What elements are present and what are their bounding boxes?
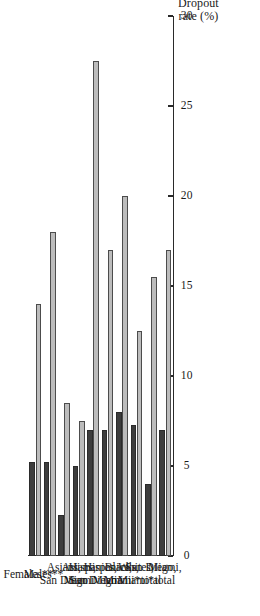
- y-tick-label: 20: [173, 190, 199, 202]
- chart-figure: Dropout rate (%) 051015202530 Miami, tot…: [0, 0, 260, 616]
- category-label: Females**: [0, 568, 60, 581]
- bar-light: [64, 403, 70, 556]
- bar-dark: [73, 466, 79, 556]
- bar-light: [79, 421, 85, 556]
- y-tick-label: 30: [173, 10, 199, 22]
- bar-light: [137, 331, 143, 556]
- bar-light: [166, 250, 172, 556]
- bar-dark: [87, 430, 93, 556]
- bar-light: [151, 277, 157, 556]
- bar-light: [108, 250, 114, 556]
- bar-dark: [29, 462, 35, 556]
- y-tick-label: 25: [173, 100, 199, 112]
- bar-dark: [145, 484, 151, 556]
- bar-dark: [131, 425, 137, 556]
- bar-light: [93, 61, 99, 556]
- y-tick-label: 15: [173, 280, 199, 292]
- bar-light: [122, 196, 128, 556]
- y-tick-mark: [168, 195, 173, 196]
- y-tick-label: 0: [173, 550, 199, 562]
- bar-dark: [44, 462, 50, 556]
- y-tick-label: 5: [173, 460, 199, 472]
- bar-light: [36, 304, 42, 556]
- bar-light: [50, 232, 56, 556]
- bar-dark: [159, 430, 165, 556]
- bar-dark: [58, 515, 64, 556]
- bar-dark: [116, 412, 122, 556]
- y-tick-mark: [168, 15, 173, 16]
- plot-area: Dropout rate (%) 051015202530 Miami, tot…: [0, 0, 260, 616]
- y-tick-label: 10: [173, 370, 199, 382]
- bar-dark: [102, 430, 108, 556]
- y-tick-mark: [168, 105, 173, 106]
